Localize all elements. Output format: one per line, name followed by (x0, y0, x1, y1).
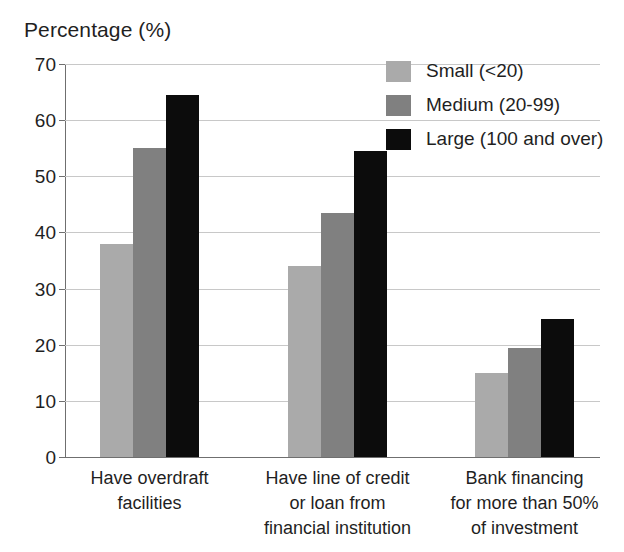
bar (100, 244, 133, 457)
x-axis-label-line: financial institution (238, 516, 438, 541)
y-axis-tick-labels: 706050403020100 (0, 64, 56, 458)
y-axis-tick (59, 345, 65, 346)
bar (475, 373, 508, 457)
y-axis-tick (59, 289, 65, 290)
legend-label: Medium (20-99) (426, 94, 560, 116)
y-axis-tick (59, 232, 65, 233)
bar (508, 348, 541, 457)
x-axis-label-line: facilities (50, 491, 250, 516)
x-axis-line (65, 457, 600, 458)
bar (288, 266, 321, 457)
y-axis-tick-label: 50 (12, 167, 56, 186)
legend-item: Medium (20-99) (386, 88, 616, 122)
chart-legend: Small (<20)Medium (20-99)Large (100 and … (386, 54, 616, 156)
y-axis-title: Percentage (%) (24, 18, 171, 42)
x-axis-group-label: Bank financingfor more than 50%of invest… (425, 466, 624, 541)
y-axis-tick (59, 120, 65, 121)
x-axis-labels: Have overdraftfacilitiesHave line of cre… (65, 466, 600, 546)
x-axis-group-label: Have overdraftfacilities (50, 466, 250, 516)
y-axis-tick-label: 60 (12, 111, 56, 130)
y-axis-tick (59, 401, 65, 402)
legend-swatch-icon (386, 61, 411, 82)
y-axis-tick-label: 70 (12, 55, 56, 74)
x-axis-group-label: Have line of creditor loan fromfinancial… (238, 466, 438, 541)
y-axis-tick-label: 0 (12, 448, 56, 467)
y-axis-tick-label: 10 (12, 392, 56, 411)
x-axis-label-line: of investment (425, 516, 624, 541)
bar (133, 148, 166, 457)
bar (354, 151, 387, 457)
x-axis-label-line: for more than 50% (425, 491, 624, 516)
y-axis-tick (59, 457, 65, 458)
legend-label: Large (100 and over) (426, 128, 603, 150)
y-axis-tick-label: 30 (12, 280, 56, 299)
bar (321, 213, 354, 457)
y-axis-tick (59, 64, 65, 65)
legend-swatch-icon (386, 129, 411, 150)
bar (166, 95, 199, 457)
x-axis-label-line: Have overdraft (50, 466, 250, 491)
x-axis-label-line: Bank financing (425, 466, 624, 491)
legend-item: Large (100 and over) (386, 122, 616, 156)
y-axis-line (65, 64, 66, 458)
y-axis-tick-label: 40 (12, 223, 56, 242)
x-axis-label-line: or loan from (238, 491, 438, 516)
bar (541, 319, 574, 457)
x-axis-label-line: Have line of credit (238, 466, 438, 491)
bar-chart: Percentage (%) 706050403020100 Have over… (0, 0, 624, 552)
legend-item: Small (<20) (386, 54, 616, 88)
legend-label: Small (<20) (426, 60, 524, 82)
y-axis-tick (59, 176, 65, 177)
legend-swatch-icon (386, 95, 411, 116)
y-axis-tick-label: 20 (12, 336, 56, 355)
